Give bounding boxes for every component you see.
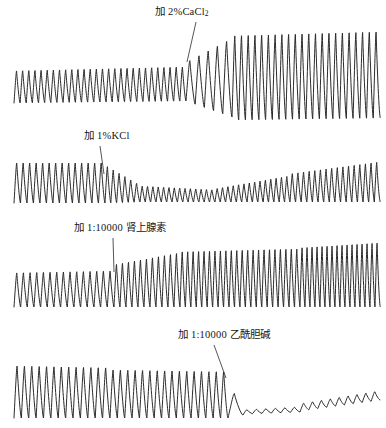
panel-acetylcholine — [14, 366, 380, 418]
contraction-trace-canvas — [0, 0, 386, 428]
kymograph-figure: 加 2%CaCl2 加 1%KCl 加 1:10000 肾上腺素 加 1:100… — [0, 0, 386, 428]
annotation-kcl-text: 加 1%KCl — [84, 130, 130, 141]
panel-cacl2 — [14, 32, 380, 120]
annotation-adrenaline: 加 1:10000 肾上腺素 — [74, 222, 166, 234]
annotation-acetylcholine: 加 1:10000 乙酰胆碱 — [178, 329, 270, 341]
panel-adrenaline — [14, 243, 380, 307]
annotation-cacl2-text: 加 2%CaCl — [155, 6, 205, 17]
annotation-cacl2: 加 2%CaCl2 — [155, 6, 209, 19]
annotation-acetylcholine-text: 加 1:10000 乙酰胆碱 — [178, 329, 270, 340]
annotation-adrenaline-text: 加 1:10000 肾上腺素 — [74, 222, 166, 233]
annotation-kcl: 加 1%KCl — [84, 130, 130, 142]
leader-line-cacl2 — [187, 22, 196, 62]
leader-line-acetylcholine — [214, 345, 226, 378]
annotation-cacl2-subscript: 2 — [205, 9, 209, 18]
panel-kcl — [14, 162, 380, 203]
leader-line-adrenaline — [113, 238, 114, 272]
